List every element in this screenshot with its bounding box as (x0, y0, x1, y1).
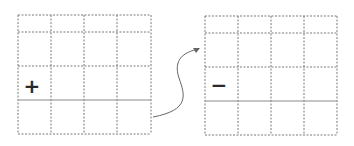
plus-symbol: + (24, 74, 41, 98)
diagram-canvas: + − (0, 0, 354, 146)
transition-arrow (153, 49, 199, 117)
minus-symbol: − (211, 73, 228, 97)
